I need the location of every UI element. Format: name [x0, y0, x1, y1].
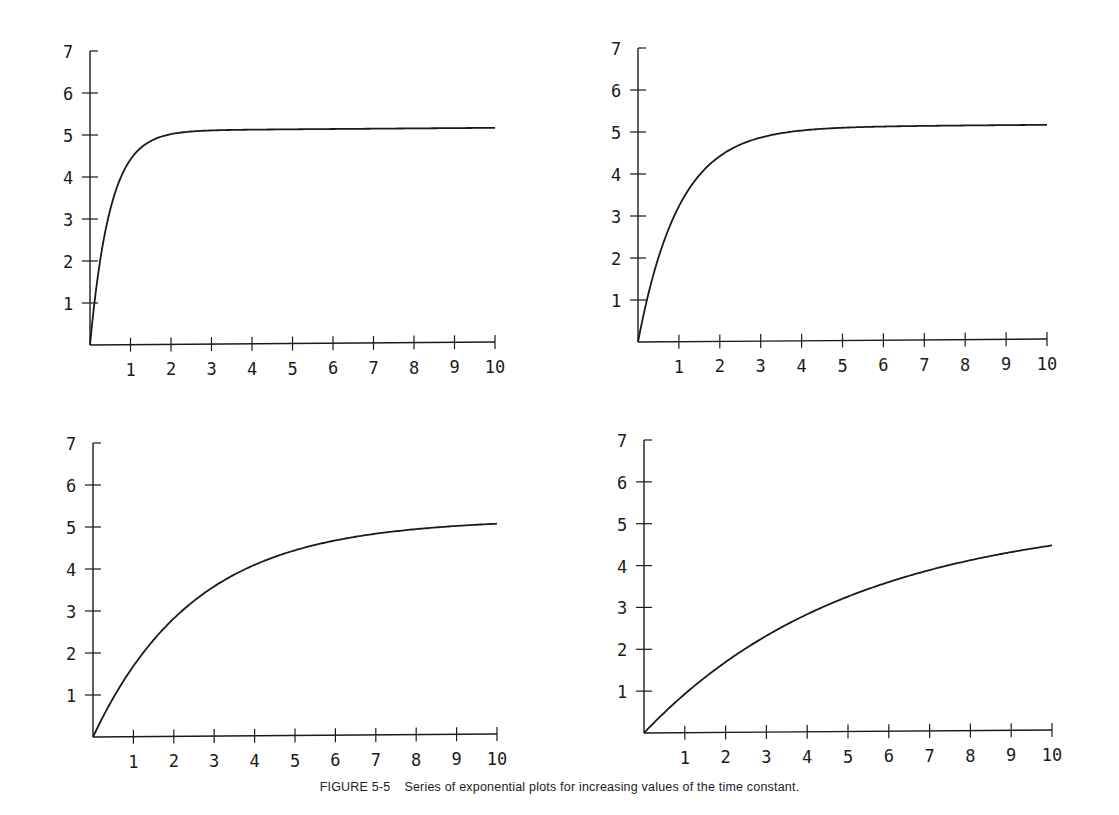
y-tick-label: 1: [611, 291, 621, 311]
y-tick-label: 2: [617, 640, 627, 660]
y-tick-label: 5: [63, 126, 73, 146]
x-tick-label: 1: [674, 357, 684, 377]
x-tick-label: 9: [1001, 354, 1011, 374]
x-tick-label: 1: [125, 360, 135, 380]
y-tick-label: 3: [611, 207, 621, 227]
y-tick-label: 5: [617, 515, 627, 535]
y-tick-label: 3: [617, 598, 627, 618]
y-tick-label: 4: [617, 557, 627, 577]
y-tick-label: 5: [66, 518, 76, 538]
y-tick-label: 1: [66, 686, 76, 706]
x-tick-label: 9: [1006, 745, 1016, 765]
x-tick-label: 2: [715, 356, 725, 376]
chart-bottom-left: 123456789101234567: [66, 434, 507, 772]
y-tick-label: 4: [66, 560, 76, 580]
x-tick-label: 10: [485, 357, 505, 377]
x-tick-label: 6: [878, 355, 888, 375]
x-tick-label: 6: [884, 746, 894, 766]
x-tick-label: 5: [287, 359, 297, 379]
y-tick-label: 2: [611, 249, 621, 269]
x-tick-label: 10: [1037, 354, 1057, 374]
x-tick-label: 1: [680, 748, 690, 768]
y-tick-label: 6: [63, 84, 73, 104]
y-tick-label: 1: [617, 682, 627, 702]
x-tick-label: 6: [330, 750, 340, 770]
x-tick-label: 7: [368, 358, 378, 378]
x-tick-label: 6: [328, 358, 338, 378]
y-tick-label: 5: [611, 123, 621, 143]
x-tick-label: 7: [371, 750, 381, 770]
y-tick-label: 1: [63, 294, 73, 314]
x-tick-label: 9: [451, 749, 461, 769]
y-tick-label: 6: [66, 476, 76, 496]
chart-bottom-right: 123456789101234567: [617, 431, 1062, 768]
x-tick-label: 3: [206, 359, 216, 379]
exponential-curve: [644, 545, 1052, 733]
x-tick-label: 10: [487, 749, 507, 769]
x-tick-label: 1: [128, 752, 138, 772]
x-tick-label: 10: [1042, 745, 1062, 765]
x-tick-label: 5: [290, 751, 300, 771]
x-tick-label: 8: [411, 750, 421, 770]
figure-caption: FIGURE 5-5Series of exponential plots fo…: [0, 780, 1119, 794]
x-tick-label: 2: [169, 751, 179, 771]
y-tick-label: 3: [66, 602, 76, 622]
x-tick-label: 2: [720, 747, 730, 767]
exponential-curve: [638, 125, 1047, 342]
y-tick-label: 6: [611, 81, 621, 101]
chart-top-right: 123456789101234567: [611, 39, 1057, 377]
x-tick-label: 8: [960, 355, 970, 375]
figure-label: FIGURE 5-5: [320, 780, 391, 794]
chart-top-left: 123456789101234567: [63, 42, 505, 380]
x-tick-label: 3: [761, 747, 771, 767]
x-tick-label: 3: [756, 356, 766, 376]
exponential-curve: [93, 524, 497, 737]
figure-5-5: 123456789101234567 123456789101234567 12…: [0, 0, 1119, 815]
x-tick-label: 7: [924, 746, 934, 766]
x-tick-label: 5: [837, 356, 847, 376]
x-tick-label: 4: [796, 356, 806, 376]
y-tick-label: 2: [63, 252, 73, 272]
x-tick-label: 3: [209, 751, 219, 771]
x-tick-label: 7: [919, 355, 929, 375]
x-tick-label: 8: [965, 746, 975, 766]
y-tick-label: 4: [63, 168, 73, 188]
x-tick-label: 4: [247, 359, 257, 379]
x-tick-label: 2: [166, 359, 176, 379]
y-tick-label: 4: [611, 165, 621, 185]
x-tick-label: 5: [843, 747, 853, 767]
y-tick-label: 7: [617, 431, 627, 451]
y-tick-label: 7: [63, 42, 73, 62]
x-tick-label: 9: [449, 357, 459, 377]
y-tick-label: 2: [66, 644, 76, 664]
y-tick-label: 6: [617, 473, 627, 493]
x-tick-label: 4: [802, 747, 812, 767]
exponential-curve: [90, 128, 495, 345]
x-tick-label: 8: [409, 358, 419, 378]
caption-text: Series of exponential plots for increasi…: [404, 780, 799, 794]
x-tick-label: 4: [249, 751, 259, 771]
y-tick-label: 7: [66, 434, 76, 454]
y-tick-label: 3: [63, 210, 73, 230]
y-tick-label: 7: [611, 39, 621, 59]
